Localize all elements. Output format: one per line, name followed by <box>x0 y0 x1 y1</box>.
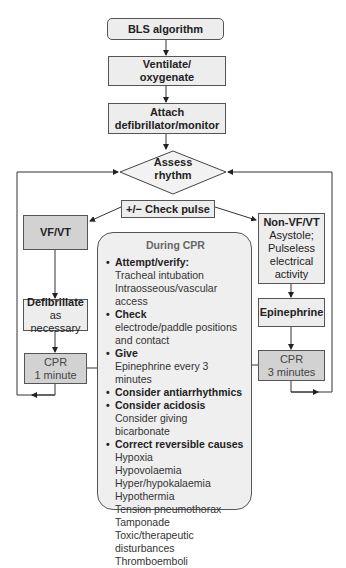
ventilate-line1: Ventilate/ <box>143 58 191 71</box>
cpr-item-detail: Intraosseous/vascular access <box>106 282 245 308</box>
cpr-1-minute-box: CPR 1 minute <box>24 353 87 384</box>
vfvt-box: VF/VT <box>23 215 88 250</box>
nonvf-sub3: electrical <box>270 255 313 268</box>
defibrillate-head: Defibrillate <box>27 296 84 309</box>
ventilate-line2: oxygenate <box>140 71 194 84</box>
cpr-item-detail: Tamponade <box>106 516 245 529</box>
nonvf-head: Non-VF/VT <box>263 216 319 229</box>
cpr-item-head: Give <box>106 347 245 360</box>
cpr-item-detail: electrode/paddle positions <box>106 321 245 334</box>
ventilate-box: Ventilate/ oxygenate <box>108 56 226 86</box>
nonvf-sub1: Asystole; <box>269 229 314 242</box>
cpr-item-detail: Hypothermia <box>106 490 245 503</box>
assess-line2: rhythm <box>120 169 226 182</box>
epinephrine-label: Epinephrine <box>260 306 324 319</box>
cpr-right-line2: 3 minutes <box>268 366 316 379</box>
cpr-item-head: Consider antiarrhythmics <box>106 386 245 399</box>
cpr-item-detail: and contact <box>106 334 245 347</box>
cpr-item-detail: Hypoxia <box>106 451 245 464</box>
attach-line2: defibrillator/monitor <box>115 119 220 132</box>
cpr-item-detail: Toxic/therapeutic disturbances <box>106 529 245 555</box>
cpr-item-detail: Hyper/hypokalaemia <box>106 477 245 490</box>
nonvf-sub2: Pulseless <box>268 242 315 255</box>
arrow-to-vfvt <box>90 207 121 221</box>
cpr-left-line2: 1 minute <box>34 369 76 382</box>
defibrillate-sub: as necessary <box>24 309 87 335</box>
cpr-item-detail: Consider giving bicarbonate <box>106 412 245 438</box>
cpr-item-detail: Tracheal intubation <box>106 269 245 282</box>
cpr-item-detail: Hypovolaemia <box>106 464 245 477</box>
cpr-item-detail: Epinephrine every 3 minutes <box>106 360 245 386</box>
attach-line1: Attach <box>150 106 184 119</box>
assess-line1: Assess <box>120 156 226 169</box>
cpr-item-head: Attempt/verify: <box>106 256 245 269</box>
epinephrine-box: Epinephrine <box>258 298 325 327</box>
check-pulse-label: +/− Check pulse <box>126 203 210 216</box>
nonvf-sub4: activity <box>275 268 309 281</box>
defibrillate-box: Defibrillate as necessary <box>23 299 88 331</box>
non-vfvt-box: Non-VF/VT Asystole; Pulseless electrical… <box>258 213 325 284</box>
cpr-item-head: Check <box>106 308 245 321</box>
cpr-item-head: Correct reversible causes <box>106 438 245 451</box>
arrow-to-nonvf <box>215 207 256 220</box>
cpr-item-head: Consider acidosis <box>106 399 245 412</box>
cpr-left-line1: CPR <box>44 356 67 369</box>
cpr-item-detail: Tension pneumothorax <box>106 503 245 516</box>
during-cpr-title: During CPR <box>106 239 245 252</box>
during-cpr-panel: During CPR Attempt/verify:Tracheal intub… <box>97 232 252 510</box>
attach-box: Attach defibrillator/monitor <box>108 103 226 134</box>
vfvt-label: VF/VT <box>40 226 71 239</box>
cpr-right-line1: CPR <box>280 353 303 366</box>
bls-label: BLS algorithm <box>128 23 203 36</box>
check-pulse-box: +/− Check pulse <box>121 200 215 218</box>
bls-algorithm-box: BLS algorithm <box>107 18 224 40</box>
during-cpr-items: Attempt/verify:Tracheal intubationIntrao… <box>106 256 245 568</box>
cpr-item-detail: Thromboemboli <box>106 555 245 568</box>
assess-rhythm-label: Assess rhythm <box>120 156 226 182</box>
cpr-3-minutes-box: CPR 3 minutes <box>258 350 325 381</box>
